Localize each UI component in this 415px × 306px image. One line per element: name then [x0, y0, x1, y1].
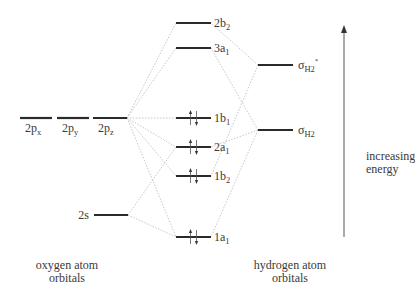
connector-2s-2a1	[128, 147, 176, 215]
oxygen-label-2pz: 2pz	[98, 121, 114, 137]
oxygen-label-2py: 2py	[62, 121, 79, 137]
mo-label-3a1: 3a1	[214, 41, 230, 57]
mo-label-2a1: 2a1	[214, 140, 230, 156]
energy-axis	[341, 25, 347, 237]
mo-label-1b1: 1b1	[214, 111, 230, 127]
hydrogen-caption: hydrogen atom orbitals	[250, 259, 330, 285]
correlation-lines	[127, 23, 258, 237]
connector-2pz-1a1	[127, 118, 176, 237]
oxygen-label-2px: 2px	[25, 121, 42, 137]
hydrogen-label-sigma_star: σH2*	[298, 57, 319, 74]
energy-axis-label: increasing energy	[366, 150, 415, 176]
connector-2pz-2a1	[127, 118, 176, 147]
energy-arrow-head	[341, 25, 347, 33]
hydrogen-label-sigma: σH2	[298, 123, 315, 139]
connector-2pz-3a1	[127, 48, 176, 118]
electron-pairs	[189, 110, 198, 245]
connector-2pz-2b2	[127, 23, 176, 118]
connector-2pz-1b2	[127, 118, 176, 176]
oxygen-caption-line2: orbitals	[35, 272, 99, 285]
connector-2s-1a1	[128, 215, 176, 237]
energy-label-line2: energy	[366, 163, 415, 176]
energy-levels	[20, 23, 293, 237]
oxygen-caption: oxygen atom orbitals	[35, 259, 99, 285]
mo-label-2b2: 2b2	[214, 16, 230, 32]
mo-label-1b2: 1b2	[214, 169, 230, 185]
oxygen-label-2s: 2s	[78, 208, 89, 222]
hydrogen-caption-line2: orbitals	[250, 272, 330, 285]
mo-label-1a1: 1a1	[214, 230, 230, 246]
